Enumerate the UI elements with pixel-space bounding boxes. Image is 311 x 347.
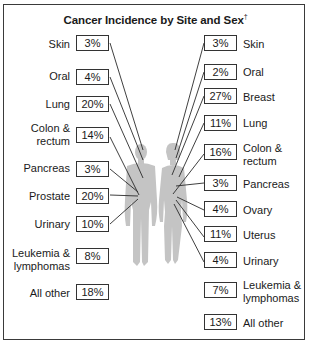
male-value-urinary: 10% [76, 216, 109, 232]
female-value-colon-rectum: 16% [204, 144, 237, 160]
male-label-urinary: Urinary [10, 218, 70, 231]
female-label-colon-rectum: Colon & rectum [243, 142, 282, 167]
female-label-oral: Oral [243, 66, 264, 79]
female-value-lung: 11% [204, 115, 237, 131]
male-value-lung: 20% [76, 96, 109, 112]
male-value-skin: 3% [76, 35, 109, 51]
male-value-pancreas: 3% [76, 161, 109, 177]
female-value-leukemia-lymphomas: 7% [204, 282, 237, 298]
female-label-pancreas: Pancreas [243, 178, 289, 191]
male-value-leukemia-lymphomas: 8% [76, 248, 109, 264]
male-label-colon-line1: Colon & [10, 122, 70, 135]
female-value-urinary: 4% [204, 252, 237, 268]
male-label-lung: Lung [10, 98, 70, 111]
male-label-leuk-line1: Leukemia & [5, 247, 70, 260]
male-label-leukemia-lymphomas: Leukemia & lymphomas [5, 247, 70, 272]
male-label-pancreas: Pancreas [10, 162, 70, 175]
male-value-colon-rectum: 14% [76, 127, 109, 143]
female-value-uterus: 11% [204, 226, 237, 242]
female-label-leukemia-lymphomas: Leukemia & lymphomas [243, 279, 301, 304]
female-label-leuk-line1: Leukemia & [243, 279, 301, 292]
female-value-oral: 2% [204, 64, 237, 80]
male-value-prostate: 20% [76, 188, 109, 204]
male-label-prostate: Prostate [10, 190, 70, 203]
female-label-breast: Breast [243, 91, 275, 104]
female-value-breast: 27% [204, 88, 237, 104]
female-label-colon-line2: rectum [243, 155, 282, 168]
female-label-urinary: Urinary [243, 255, 278, 268]
female-label-leuk-line2: lymphomas [243, 292, 301, 305]
male-value-all-other: 18% [76, 284, 109, 300]
male-label-leuk-line2: lymphomas [5, 260, 70, 273]
male-label-skin: Skin [10, 38, 70, 51]
female-label-uterus: Uterus [243, 229, 275, 242]
male-figure-icon [125, 144, 158, 266]
female-value-skin: 3% [204, 35, 237, 51]
female-label-all-other: All other [243, 317, 283, 330]
male-label-all-other: All other [10, 287, 70, 300]
female-value-pancreas: 3% [204, 175, 237, 191]
male-label-colon-rectum: Colon & rectum [10, 122, 70, 147]
female-label-ovary: Ovary [243, 204, 272, 217]
male-label-colon-line2: rectum [10, 135, 70, 148]
female-label-skin: Skin [243, 38, 264, 51]
female-label-colon-line1: Colon & [243, 142, 282, 155]
male-label-oral: Oral [10, 70, 70, 83]
female-figure-icon [159, 143, 188, 264]
male-value-oral: 4% [76, 69, 109, 85]
female-value-ovary: 4% [204, 201, 237, 217]
female-value-all-other: 13% [204, 314, 237, 330]
female-label-lung: Lung [243, 117, 267, 130]
